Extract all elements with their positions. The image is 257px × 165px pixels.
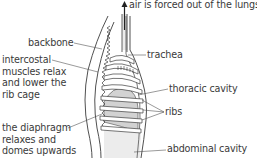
diaphragm-label: the diaphragm relaxes and domes upwards	[2, 122, 76, 157]
abdominal-cavity-label: abdominal cavity	[167, 143, 247, 155]
diaphragm-label-line1: the diaphragm	[2, 122, 76, 134]
backbone-label: backbone	[28, 37, 74, 49]
thoracic-leader	[138, 89, 168, 95]
ribs-leader-3	[142, 112, 164, 120]
air-label: air is forced out of the lungs	[129, 0, 257, 11]
ribs-label: ribs	[165, 106, 182, 118]
intercostal-label-line2: muscles relax	[2, 66, 66, 78]
trachea-label: trachea	[147, 49, 183, 61]
thoracic-cavity-label: thoracic cavity	[169, 83, 238, 95]
backbone-leader	[74, 43, 102, 49]
intercostal-label-line4: rib cage	[2, 89, 66, 101]
intercostal-label: intercostal muscles relax and lower the …	[2, 54, 66, 100]
diaphragm-label-line3: domes upwards	[2, 145, 76, 157]
intercostal-label-line1: intercostal	[2, 54, 66, 66]
diaphragm-label-line2: relaxes and	[2, 134, 76, 146]
intercostal-label-line3: and lower the	[2, 77, 66, 89]
arrow-up-icon	[122, 1, 128, 7]
